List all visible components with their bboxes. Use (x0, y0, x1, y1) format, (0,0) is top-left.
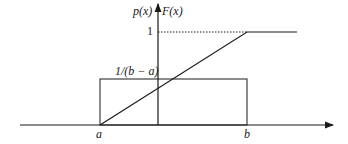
a-label: a (96, 127, 102, 141)
p-x-label: p(x) (132, 4, 152, 18)
diagram-canvas: p(x) F(x) 1 1/(b − a) a b (0, 0, 348, 144)
density-rectangle (100, 79, 247, 125)
density-height-label: 1/(b − a) (115, 64, 158, 78)
uniform-distribution-diagram: p(x) F(x) 1 1/(b − a) a b (0, 0, 348, 144)
one-label: 1 (147, 24, 153, 38)
f-x-label: F(x) (161, 4, 183, 18)
b-label: b (244, 127, 250, 141)
